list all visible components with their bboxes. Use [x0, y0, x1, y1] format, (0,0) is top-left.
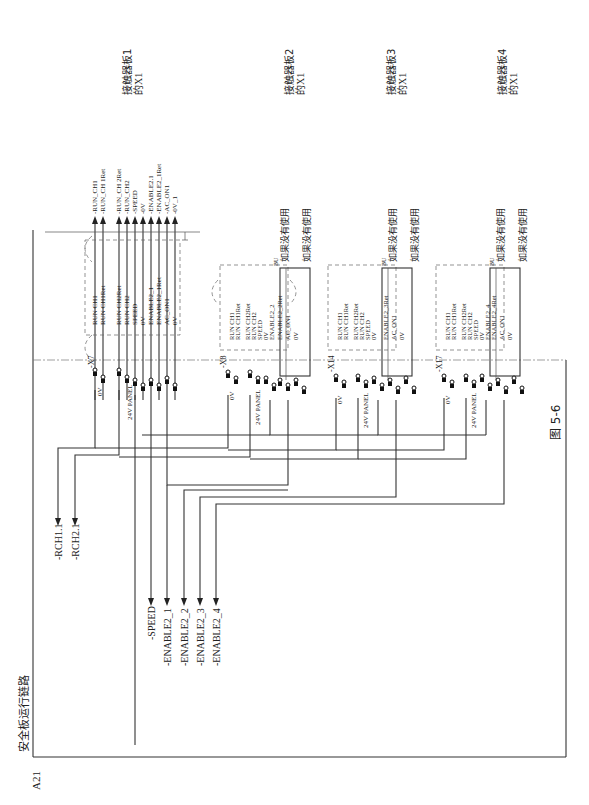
- connector-x7-label: -X7: [87, 356, 96, 368]
- signal-label: -RUN_CH 2Ret: [115, 169, 123, 214]
- cable-signal-label: AC_ON1: [163, 298, 171, 325]
- svg-text:AC_ON1: AC_ON1: [498, 315, 505, 340]
- output-rch2: -RCH2.1: [70, 524, 81, 560]
- board-2-connector: BU 如果没有使用 如果没有使用 RUN CH1 RUN CH1Ret RUN …: [212, 208, 312, 425]
- svg-text:ENABLE2_4Ret: ENABLE2_4Ret: [490, 295, 497, 340]
- signal-label: -SPEED: [131, 190, 139, 214]
- cable-signal-label: RUN CH2Ret: [115, 285, 123, 325]
- target-board-1: 接触器板1: [121, 49, 133, 95]
- signal-label: -AC_ON1: [163, 184, 171, 214]
- signal-label: -RUN_CH2: [123, 180, 131, 214]
- svg-text:RUN CH1Ret: RUN CH1Ret: [342, 303, 349, 340]
- signal-label: -0V_1: [171, 196, 179, 214]
- figure-caption: 图 5-6: [549, 405, 563, 440]
- signal-label: -RUN_CH 1Ret: [99, 169, 107, 214]
- svg-text:0V: 0V: [506, 332, 513, 340]
- module-id: A21: [30, 771, 42, 790]
- target-board-3-x1: 的X1: [396, 73, 408, 95]
- svg-text:0V: 0V: [370, 332, 377, 340]
- target-board-1-x1: 的X1: [132, 73, 144, 95]
- unused-note: 如果没有使用: [409, 208, 420, 262]
- cable-signal-label: RUN CH1Ret: [99, 285, 107, 325]
- zero-v-label: 0V: [228, 391, 236, 400]
- panel-24v-label: 24V PANEL: [254, 389, 262, 425]
- svg-text:AC_ON1: AC_ON1: [390, 315, 397, 340]
- board-3-connector: BU 如果没有使用 如果没有使用 RUN CH1 RUN CH1Ret RUN …: [327, 208, 420, 428]
- circuit-diagram: A21 安全板运行链路 图 5-6 接触器板1 的X1 接触器板2 的X1 接触…: [0, 0, 589, 805]
- zero-v-label: 0V: [444, 395, 452, 404]
- panel-24v-label: 24V PANEL: [362, 392, 370, 428]
- svg-text:RUN CH1Ret: RUN CH1Ret: [450, 303, 457, 340]
- cable-signal-label: ENABLE2_1Ret: [155, 277, 163, 325]
- cable-signal-label: RUN CH2: [123, 295, 131, 325]
- target-board-4: 接触器板4: [496, 49, 508, 95]
- target-board-2: 接触器板2: [283, 49, 295, 95]
- connector-x14-label: -X14: [327, 356, 336, 372]
- zero-v-label: 0V: [336, 395, 344, 404]
- output-rch1: -RCH1.1: [53, 524, 64, 560]
- bu-label: BU: [489, 257, 495, 266]
- bus-wiring: [58, 390, 504, 745]
- svg-text:ENABLE2_3Ret: ENABLE2_3Ret: [382, 295, 389, 340]
- signal-label: -0V: [139, 203, 147, 214]
- output-enable2-1: -ENABLE2_1: [162, 608, 173, 666]
- svg-text:ENABLE2_2: ENABLE2_2: [268, 305, 275, 340]
- svg-text:0V: 0V: [398, 332, 405, 340]
- bu-label: BU: [381, 257, 387, 266]
- target-board-2-x1: 的X1: [294, 73, 306, 95]
- svg-text:ENABLE2_2Ret: ENABLE2_2Ret: [276, 295, 283, 340]
- unused-note: 如果没有使用: [495, 208, 506, 262]
- svg-text:AC_ON1: AC_ON1: [284, 315, 291, 340]
- output-enable2-3: -ENABLE2_3: [195, 608, 206, 666]
- output-enable2-4: -ENABLE2_4: [211, 608, 222, 666]
- cable-signal-label: SPEED: [131, 304, 139, 325]
- cable-signal-label: 0V: [139, 316, 147, 325]
- target-board-4-x1: 的X1: [507, 73, 519, 95]
- output-speed: -SPEED: [146, 606, 157, 640]
- output-enable2-2: -ENABLE2_2: [179, 608, 190, 666]
- unused-note: 如果没有使用: [387, 208, 398, 262]
- svg-text:RUN CH1Ret: RUN CH1Ret: [234, 303, 241, 340]
- unused-note: 如果没有使用: [301, 208, 312, 262]
- target-board-3: 接触器板3: [385, 49, 397, 95]
- connector-x17-label: -X17: [435, 356, 444, 372]
- bu-label: BU: [273, 257, 279, 266]
- cable-signal-label: 0V: [171, 316, 179, 325]
- cable-signal-label: ENABLE2_1: [147, 286, 155, 325]
- panel-24v-label: 24V PANEL: [470, 392, 478, 428]
- signal-label: -ENABLE2.1: [147, 175, 155, 214]
- board-4-connector: BU 如果没有使用 如果没有使用 RUN CH1 RUN CH1Ret RUN …: [435, 208, 528, 428]
- unused-note: 如果没有使用: [279, 208, 290, 262]
- svg-text:0V: 0V: [292, 332, 299, 340]
- board-1-connector: -RUN_CH1 -RUN_CH 1Ret -RUN_CH 2Ret -RUN_…: [45, 164, 200, 420]
- panel-24v-label: 24V PANEL: [126, 384, 134, 420]
- zero-v-label: 0V: [96, 387, 104, 396]
- signal-label: -RUN_CH1: [91, 180, 99, 214]
- unused-note: 如果没有使用: [517, 208, 528, 262]
- figure-title: 安全板运行链路: [17, 675, 31, 752]
- connector-x8-label: -X8: [219, 356, 228, 368]
- signal-label: -ENABLE2_1Ret: [155, 164, 163, 214]
- cable-signal-label: RUN CH1: [91, 295, 99, 325]
